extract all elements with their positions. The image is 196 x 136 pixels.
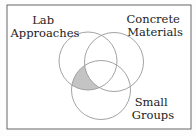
venn-diagram: Lab Approaches Concrete Materials Small … — [0, 0, 196, 136]
label-concrete-materials: Concrete Materials — [127, 12, 184, 39]
label-small-groups: Small Groups — [132, 95, 174, 122]
